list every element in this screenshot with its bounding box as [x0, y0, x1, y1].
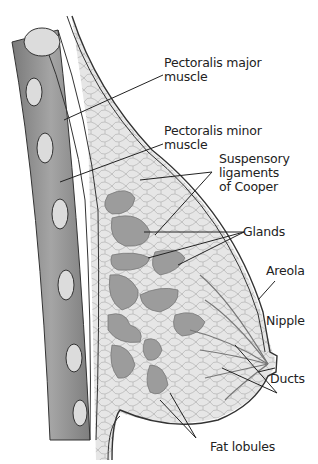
label-pectoralis-major: Pectoralis major muscle	[164, 56, 261, 84]
label-fat-lobules: Fat lobules	[210, 440, 275, 454]
breast-anatomy-diagram: Pectoralis major muscle Pectoralis minor…	[0, 0, 318, 464]
label-ducts: Ducts	[270, 372, 305, 386]
label-nipple: Nipple	[266, 314, 305, 328]
label-areola: Areola	[266, 264, 305, 278]
label-pectoralis-minor: Pectoralis minor muscle	[164, 124, 262, 152]
label-suspensory-ligaments: Suspensory ligaments of Cooper	[219, 152, 290, 194]
label-glands: Glands	[243, 225, 285, 239]
